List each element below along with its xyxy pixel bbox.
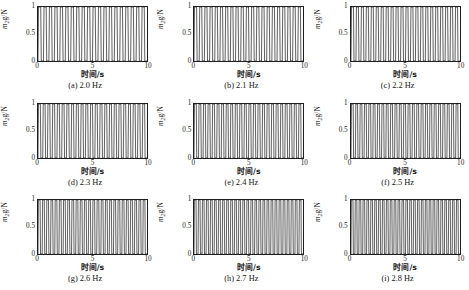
waveform-plot	[351, 7, 460, 61]
plot-area	[37, 103, 148, 159]
x-axis-label: 时间/s	[37, 168, 148, 176]
y-tick-label: 0	[21, 251, 35, 258]
plot-area	[193, 199, 304, 255]
x-tick-label: 5	[91, 160, 95, 167]
y-axis-label-subscript: 2	[4, 214, 10, 217]
subplot-i: m2g/N00.510510时间/s(i) 2.8 Hz	[313, 193, 469, 290]
subplot-caption: (b) 2.1 Hz	[176, 82, 306, 90]
y-axis-ticks: 00.51	[331, 0, 348, 68]
y-tick-label: 0.5	[334, 223, 348, 230]
y-axis-label: m2g/N	[157, 94, 167, 138]
y-tick-label: 0	[177, 155, 191, 162]
y-tick-label: 1	[21, 100, 35, 107]
y-tick-label: 0	[177, 251, 191, 258]
x-tick-label: 5	[247, 160, 251, 167]
y-axis-label: m2g/N	[314, 190, 324, 234]
waveform-plot	[38, 200, 147, 254]
plot-area	[350, 103, 461, 159]
plot-area	[350, 199, 461, 255]
waveform-plot	[194, 7, 303, 61]
waveform-plot	[351, 200, 460, 254]
plot-area	[193, 103, 304, 159]
figure-grid: m2g/N00.510510时间/s(a) 2.0 Hzm2g/N00.5105…	[0, 0, 469, 290]
y-axis-label-mass: m	[0, 23, 9, 28]
y-tick-label: 1	[334, 196, 348, 203]
y-axis-label: m2g/N	[1, 190, 11, 234]
x-tick-label: 0	[35, 63, 39, 70]
x-tick-label: 10	[301, 160, 308, 167]
subplot-caption: (i) 2.8 Hz	[333, 275, 463, 283]
subplot-f: m2g/N00.510510时间/s(f) 2.5 Hz	[313, 97, 469, 194]
subplot-c: m2g/N00.510510时间/s(c) 2.2 Hz	[313, 0, 469, 97]
y-axis-label: m2g/N	[314, 0, 324, 41]
x-tick-label: 10	[144, 63, 151, 70]
waveform-line	[351, 200, 460, 254]
y-tick-label: 0.5	[177, 223, 191, 230]
y-axis-label-mass: m	[313, 23, 322, 28]
y-axis-label: m2g/N	[1, 94, 11, 138]
subplot-a: m2g/N00.510510时间/s(a) 2.0 Hz	[0, 0, 156, 97]
waveform-line	[38, 7, 147, 61]
y-tick-label: 0.5	[21, 30, 35, 37]
y-axis-label-mass: m	[156, 23, 165, 28]
x-tick-label: 10	[144, 160, 151, 167]
subplot-e: m2g/N00.510510时间/s(e) 2.4 Hz	[156, 97, 312, 194]
x-tick-label: 0	[35, 160, 39, 167]
waveform-line	[351, 104, 460, 158]
y-axis-label-unit: g/N	[0, 9, 9, 20]
waveform-plot	[38, 104, 147, 158]
x-tick-label: 10	[144, 256, 151, 263]
waveform-line	[38, 200, 147, 254]
y-axis-ticks: 00.51	[174, 193, 191, 261]
y-tick-label: 0.5	[177, 127, 191, 134]
y-axis-label-subscript: 2	[317, 214, 323, 217]
subplot-b: m2g/N00.510510时间/s(b) 2.1 Hz	[156, 0, 312, 97]
x-tick-label: 0	[348, 256, 352, 263]
waveform-line	[351, 7, 460, 61]
waveform-line	[194, 104, 303, 158]
y-axis-label: m2g/N	[314, 94, 324, 138]
subplot-caption: (d) 2.3 Hz	[20, 179, 150, 187]
y-tick-label: 0	[21, 58, 35, 65]
y-axis-label-mass: m	[313, 120, 322, 125]
y-tick-label: 0	[21, 155, 35, 162]
x-axis-label: 时间/s	[350, 264, 461, 272]
x-tick-label: 10	[457, 256, 464, 263]
x-tick-label: 0	[192, 256, 196, 263]
y-axis-ticks: 00.51	[18, 193, 35, 261]
subplot-d: m2g/N00.510510时间/s(d) 2.3 Hz	[0, 97, 156, 194]
x-axis-label: 时间/s	[193, 264, 304, 272]
y-axis-ticks: 00.51	[174, 97, 191, 165]
waveform-plot	[194, 200, 303, 254]
subplot-caption: (g) 2.6 Hz	[20, 275, 150, 283]
y-axis-ticks: 00.51	[331, 193, 348, 261]
x-tick-label: 10	[457, 160, 464, 167]
y-tick-label: 0.5	[21, 223, 35, 230]
x-tick-label: 10	[301, 256, 308, 263]
y-axis-label-unit: g/N	[156, 203, 165, 214]
x-axis-label: 时间/s	[350, 168, 461, 176]
subplot-caption: (c) 2.2 Hz	[333, 82, 463, 90]
x-axis-label: 时间/s	[37, 264, 148, 272]
y-axis-ticks: 00.51	[331, 97, 348, 165]
y-tick-label: 0	[334, 251, 348, 258]
y-axis-label-mass: m	[156, 120, 165, 125]
waveform-plot	[38, 7, 147, 61]
y-tick-label: 1	[334, 3, 348, 10]
y-axis-label-unit: g/N	[313, 106, 322, 117]
y-tick-label: 1	[177, 100, 191, 107]
y-tick-label: 0	[334, 58, 348, 65]
y-axis-label-unit: g/N	[313, 203, 322, 214]
x-tick-label: 0	[348, 63, 352, 70]
x-tick-label: 5	[403, 160, 407, 167]
subplot-h: m2g/N00.510510时间/s(h) 2.7 Hz	[156, 193, 312, 290]
y-axis-label: m2g/N	[1, 0, 11, 41]
plot-area	[37, 6, 148, 62]
y-axis-label-mass: m	[156, 217, 165, 222]
y-axis-label: m2g/N	[157, 0, 167, 41]
x-axis-label: 时间/s	[350, 71, 461, 79]
y-tick-label: 1	[177, 3, 191, 10]
y-axis-label-subscript: 2	[161, 214, 167, 217]
waveform-plot	[194, 104, 303, 158]
y-tick-label: 0	[334, 155, 348, 162]
